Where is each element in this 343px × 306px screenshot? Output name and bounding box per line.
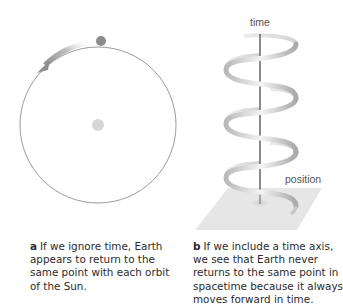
earth-dot <box>96 36 106 46</box>
caption-b-label: b <box>193 240 200 252</box>
caption-a: aIf we ignore time, Earth appears to ret… <box>30 240 180 293</box>
spacetime-figure: time position <box>0 0 342 240</box>
caption-b: bIf we include a time axis, we see that … <box>193 240 343 306</box>
caption-a-label: a <box>30 240 37 252</box>
panel-b-spacetime-helix: time position <box>195 16 322 230</box>
panel-a-orbit-diagram <box>20 36 176 203</box>
time-axis-label: time <box>250 16 270 28</box>
caption-a-text: If we ignore time, Earth appears to retu… <box>30 240 169 292</box>
position-axis-label: position <box>285 173 321 185</box>
orbit-direction-arrow <box>45 42 92 65</box>
sun-dot <box>92 119 104 131</box>
caption-b-text: If we include a time axis, we see that E… <box>193 240 343 305</box>
arrow-head-icon <box>37 60 50 73</box>
